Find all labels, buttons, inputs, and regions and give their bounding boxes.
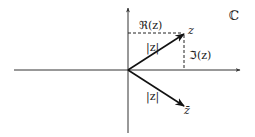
z-conjugate-label: z̄ — [183, 104, 190, 117]
complex-plane-diagram: ℂ ℜ(z) z |z| ℑ(z) |z| z̄ — [0, 0, 255, 137]
modulus-upper-label: |z| — [146, 41, 159, 55]
imag-part-label: ℑ(z) — [189, 49, 211, 62]
real-part-label: ℜ(z) — [139, 19, 162, 32]
complex-plane-symbol: ℂ — [229, 8, 239, 23]
z-label: z — [187, 24, 194, 37]
modulus-lower-label: |z| — [146, 90, 159, 104]
